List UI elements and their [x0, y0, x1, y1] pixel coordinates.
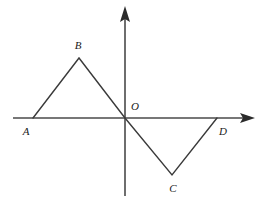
geometry-figure: A B O C D — [0, 0, 262, 203]
label-B: B — [75, 40, 82, 51]
label-C: C — [169, 183, 176, 194]
label-A: A — [23, 126, 30, 137]
label-O: O — [131, 101, 139, 112]
label-D: D — [219, 126, 227, 137]
